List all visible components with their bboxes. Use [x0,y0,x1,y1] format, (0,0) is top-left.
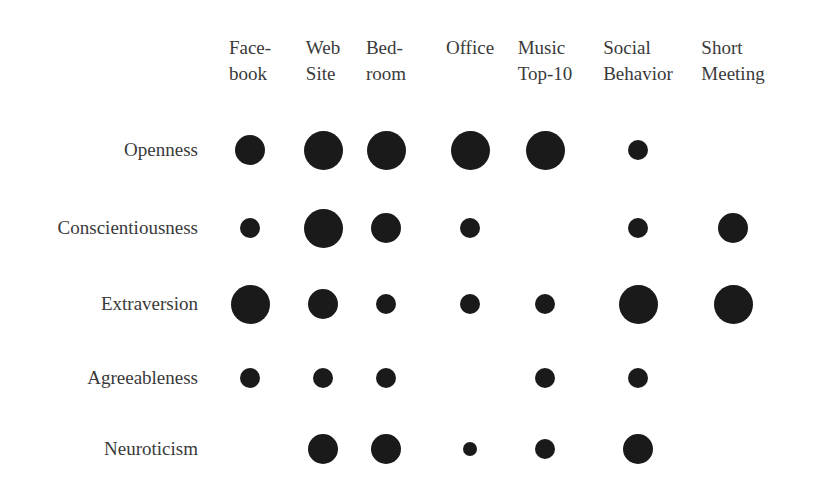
data-dot [535,368,555,388]
data-dot [535,439,555,459]
data-dot [308,434,338,464]
data-dot [463,442,477,456]
data-dot [714,285,753,324]
column-header: Face-book [229,35,271,87]
data-dot [367,131,406,170]
data-dot [231,285,270,324]
data-dot [304,131,343,170]
data-dot [371,434,401,464]
column-header: Office [446,35,494,61]
data-dot [376,294,396,314]
data-dot [623,434,653,464]
row-label: Conscientiousness [58,216,198,240]
data-dot [240,368,260,388]
data-dot [308,289,338,319]
column-header-line2: Meeting [701,61,764,87]
column-header: SocialBehavior [603,35,673,87]
column-header-line1: Web [306,35,340,61]
column-header-line1: Short [701,35,764,61]
data-dot [376,368,396,388]
row-label: Agreeableness [87,366,198,390]
data-dot [628,218,648,238]
column-header-line1: Bed- [366,35,406,61]
column-header-line1: Social [603,35,673,61]
data-dot [235,135,265,165]
data-dot [718,213,748,243]
data-dot [628,140,648,160]
column-header-line2: Site [306,61,340,87]
column-header-line2: Top-10 [518,61,573,87]
column-header-line1: Music [518,35,573,61]
data-dot [240,218,260,238]
data-dot [526,131,565,170]
data-dot [313,368,333,388]
column-header: Bed-room [366,35,406,87]
column-header: MusicTop-10 [518,35,573,87]
data-dot [619,285,658,324]
row-label: Extraversion [101,292,198,316]
column-header-line2: book [229,61,271,87]
data-dot [371,213,401,243]
data-dot [628,368,648,388]
data-dot [535,294,555,314]
data-dot [451,131,490,170]
data-dot [304,209,343,248]
row-label: Neuroticism [104,437,198,461]
column-header: WebSite [306,35,340,87]
column-header-line1: Face- [229,35,271,61]
column-header-line2: Behavior [603,61,673,87]
column-header-line2: room [366,61,406,87]
column-header: ShortMeeting [701,35,764,87]
row-label: Openness [124,138,198,162]
data-dot [460,218,480,238]
column-header-line1: Office [446,35,494,61]
data-dot [460,294,480,314]
